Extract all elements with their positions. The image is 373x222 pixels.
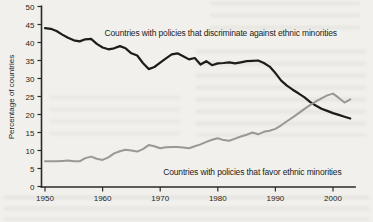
y-tick-label: 35 [26, 57, 35, 66]
y-tick-label: 45 [26, 21, 35, 30]
x-tick-label: 2000 [324, 194, 342, 203]
x-tick-label: 1990 [267, 194, 285, 203]
x-tick-label: 1980 [209, 194, 227, 203]
discriminate-series-label: Countries with policies that discriminat… [105, 28, 337, 38]
y-tick-label: 15 [26, 129, 35, 138]
x-tick-label: 1960 [94, 194, 112, 203]
y-tick-label: 30 [26, 75, 35, 84]
y-tick-label: 0 [30, 183, 35, 192]
y-tick-label: 20 [26, 111, 35, 120]
scanned-figure-page: 0510152025303540455019501960197019801990… [0, 0, 373, 222]
favor-series-label: Countries with policies that favor ethni… [163, 167, 341, 177]
y-tick-label: 50 [26, 3, 35, 12]
discriminate-line [45, 28, 350, 118]
y-tick-label: 10 [26, 147, 35, 156]
favor-line [45, 94, 350, 162]
y-axis-title: Percentage of countries [7, 55, 16, 140]
x-tick-label: 1950 [36, 194, 54, 203]
y-tick-label: 5 [30, 165, 35, 174]
y-tick-label: 40 [26, 39, 35, 48]
line-chart: 0510152025303540455019501960197019801990… [0, 0, 373, 222]
series-lines [45, 28, 350, 161]
x-tick-label: 1970 [151, 194, 169, 203]
y-tick-label: 25 [26, 93, 35, 102]
